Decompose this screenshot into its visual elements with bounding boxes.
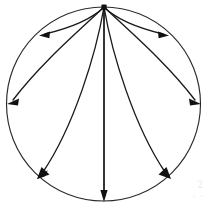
arrow-head-lower-left-fill xyxy=(37,167,50,179)
flow-diagram xyxy=(0,0,208,208)
figure-container: 2 · · xyxy=(0,0,208,208)
arrow-head-lower-right xyxy=(159,167,172,179)
flow-line-mid-right-arc xyxy=(104,7,195,100)
arrow-head-bottom xyxy=(100,190,107,202)
flow-line-mid-left-arc xyxy=(13,7,104,100)
watermark: 2 · · xyxy=(192,179,205,203)
watermark-line-2: · · xyxy=(192,190,204,202)
arrow-head-upper-right xyxy=(158,32,169,39)
arrow-head-upper-left xyxy=(39,32,50,39)
source-vertex-dot xyxy=(101,4,106,9)
flow-line-upper-right-arc xyxy=(104,7,163,34)
